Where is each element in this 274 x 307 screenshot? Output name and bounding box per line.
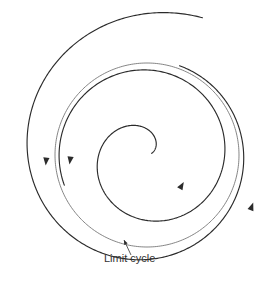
limit-cycle-label: Limit cycle bbox=[104, 252, 155, 264]
limit-cycle-annotation: Limit cycle bbox=[104, 240, 155, 264]
outer-left-arrow-icon bbox=[43, 157, 49, 165]
inner-trajectory-path bbox=[59, 70, 225, 221]
inner-arrow-icon bbox=[177, 182, 184, 190]
outer-right-arrow-icon bbox=[248, 203, 254, 212]
outer-trajectory-path bbox=[27, 13, 244, 260]
cycle-left-arrow-icon bbox=[68, 156, 74, 164]
flow-direction-arrows bbox=[43, 156, 253, 211]
limit-cycle-figure: Limit cycle bbox=[0, 0, 274, 307]
phase-portrait-svg: Limit cycle bbox=[0, 0, 274, 307]
trajectory-group bbox=[27, 13, 244, 260]
limit-cycle-path bbox=[55, 63, 239, 247]
